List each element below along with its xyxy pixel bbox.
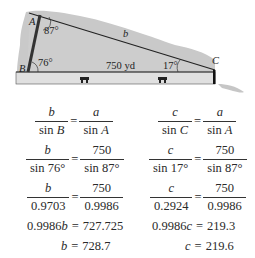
- denominator: sin 87°: [82, 160, 121, 175]
- fraction: 750 0.9986: [82, 182, 120, 212]
- var: C: [180, 123, 188, 137]
- denominator: 0.9986: [205, 198, 243, 213]
- equals-sign: =: [71, 240, 78, 253]
- equals-sign: =: [71, 153, 78, 166]
- side-b-label: b: [123, 29, 128, 40]
- variable: c: [186, 220, 192, 233]
- fraction: c 0.2924: [152, 182, 190, 212]
- triangle-figure: A 87° b B 76° 750 yd 17° C: [0, 0, 255, 100]
- fraction: a sin A: [205, 106, 234, 136]
- numerator: c: [158, 106, 192, 122]
- right-eq-row-5: c = 219.6: [185, 240, 234, 253]
- vertex-c-label: C: [212, 56, 219, 67]
- fraction: b sin B: [37, 106, 66, 136]
- numerator: 750: [203, 182, 245, 198]
- equals-sign: =: [194, 191, 201, 204]
- equals-sign: =: [194, 115, 201, 128]
- left-eq-row-5: b = 728.7: [61, 240, 110, 253]
- denominator: sin A: [205, 122, 234, 137]
- variable: b: [61, 220, 67, 233]
- numerator: c: [149, 144, 192, 160]
- value: 219.3: [207, 220, 235, 233]
- denominator: sin C: [160, 122, 190, 137]
- coefficient: 0.9986: [152, 220, 186, 233]
- equals-sign: =: [196, 220, 203, 233]
- vertex-b-label: B: [19, 64, 25, 75]
- left-eq-row-4: 0.9986b = 727.725: [27, 220, 123, 233]
- denominator: sin 17°: [151, 160, 190, 175]
- equals-sign: =: [195, 240, 202, 253]
- fraction: b 0.9703: [29, 182, 67, 212]
- fn: sin: [207, 123, 225, 137]
- equals-sign: =: [70, 115, 77, 128]
- denominator: sin B: [37, 122, 66, 137]
- result-b: 728.7: [82, 240, 110, 253]
- value: 727.725: [83, 220, 124, 233]
- fraction: a sin A: [81, 106, 110, 136]
- left-eq-row-2: b sin 76° = 750 sin 87°: [28, 144, 122, 174]
- variable: b: [61, 240, 67, 253]
- var: A: [225, 123, 233, 137]
- equals-sign: =: [72, 220, 79, 233]
- fraction: 750 sin 87°: [205, 144, 244, 174]
- fraction: 750 sin 87°: [82, 144, 121, 174]
- left-eq-row-3: b 0.9703 = 750 0.9986: [29, 182, 121, 212]
- numerator: c: [150, 182, 192, 198]
- numerator: b: [35, 106, 68, 122]
- numerator: b: [26, 144, 69, 160]
- denominator: sin 76°: [28, 160, 67, 175]
- fn: sin: [83, 123, 101, 137]
- fraction: c sin C: [160, 106, 190, 136]
- denominator: 0.2924: [152, 198, 190, 213]
- angle-b-label: 76°: [38, 58, 53, 69]
- vertex-a-label: A: [29, 17, 35, 28]
- variable: c: [185, 240, 191, 253]
- fn: sin: [162, 123, 180, 137]
- denominator: sin A: [81, 122, 110, 137]
- equals-sign: =: [194, 153, 201, 166]
- numerator: 750: [80, 182, 122, 198]
- numerator: b: [27, 182, 69, 198]
- denominator: sin 87°: [205, 160, 244, 175]
- left-eq-row-1: b sin B = a sin A: [37, 106, 111, 136]
- equals-sign: =: [71, 191, 78, 204]
- numerator: a: [79, 106, 112, 122]
- fraction: 750 0.9986: [205, 182, 243, 212]
- angle-a-label: 87°: [44, 26, 59, 37]
- base-length-label: 750 yd: [106, 61, 135, 72]
- right-eq-row-4: 0.9986c = 219.3: [152, 220, 235, 233]
- fn: sin: [39, 123, 57, 137]
- right-eq-row-2: c sin 17° = 750 sin 87°: [151, 144, 245, 174]
- coefficient: 0.9986: [27, 220, 61, 233]
- numerator: 750: [203, 144, 246, 160]
- right-eq-row-1: c sin C = a sin A: [160, 106, 234, 136]
- denominator: 0.9703: [29, 198, 67, 213]
- numerator: a: [203, 106, 236, 122]
- fraction: c sin 17°: [151, 144, 190, 174]
- angle-c-label: 17°: [163, 61, 178, 72]
- denominator: 0.9986: [82, 198, 120, 213]
- numerator: 750: [80, 144, 123, 160]
- triangle-diagram: [0, 0, 255, 100]
- var: A: [101, 123, 109, 137]
- right-eq-row-3: c 0.2924 = 750 0.9986: [152, 182, 244, 212]
- var: B: [57, 123, 65, 137]
- fraction: b sin 76°: [28, 144, 67, 174]
- result-c: 219.6: [206, 240, 234, 253]
